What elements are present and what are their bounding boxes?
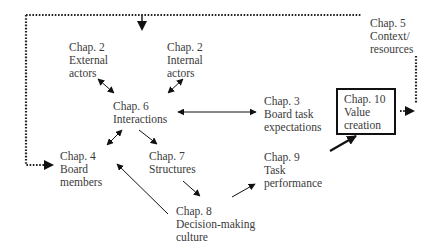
node-external-actors: Chap. 2 External actors (69, 41, 108, 79)
node-structures: Chap. 7 Structures (149, 150, 196, 176)
edge-task-performance-value (330, 136, 356, 151)
node-line: Board task (264, 108, 321, 121)
context-loop-left (26, 15, 44, 165)
node-line: actors (69, 67, 108, 80)
node-chapter: Chap. 6 (113, 100, 167, 113)
node-chapter: Chap. 7 (149, 150, 196, 163)
edge-structures-decision (183, 181, 200, 196)
node-chapter: Chap. 2 (167, 41, 203, 54)
node-line: Internal (167, 54, 203, 67)
node-board-task-expectations: Chap. 3 Board task expectations (264, 95, 321, 133)
edge-internal-actors-interactions (168, 79, 183, 93)
arrow-down-to-actors (137, 21, 147, 31)
node-chapter: Chap. 3 (264, 95, 321, 108)
node-board-members: Chap. 4 Board members (60, 150, 102, 188)
diagram-canvas: Chap. 2 External actors Chap. 2 Internal… (0, 0, 439, 245)
node-chapter: Chap. 10 (344, 93, 386, 106)
node-line: expectations (264, 121, 321, 134)
node-line: creation (344, 119, 386, 132)
arrow-value-to-context (405, 106, 415, 116)
node-interactions: Chap. 6 Interactions (113, 100, 167, 126)
node-task-performance: Chap. 9 Task performance (264, 151, 322, 189)
node-line: Value (344, 106, 386, 119)
node-line: Decision-making (176, 218, 255, 231)
arrow-to-board-members (44, 160, 54, 170)
node-line: performance (264, 177, 322, 190)
node-line: Task (264, 164, 322, 177)
edge-interactions-structures (139, 130, 157, 144)
node-line: actors (167, 67, 203, 80)
node-chapter: Chap. 4 (60, 150, 102, 163)
edge-decision-task-performance (232, 184, 255, 197)
node-line: External (69, 54, 108, 67)
node-line: resources (370, 43, 413, 56)
node-context-resources: Chap. 5 Context/ resources (370, 17, 413, 55)
node-line: members (60, 176, 102, 189)
node-internal-actors: Chap. 2 Internal actors (167, 41, 203, 79)
node-line: Context/ (370, 30, 413, 43)
node-chapter: Chap. 2 (69, 41, 108, 54)
edge-external-actors-interactions (98, 79, 114, 93)
node-line: culture (176, 231, 255, 244)
node-line: Interactions (113, 113, 167, 126)
node-decision-making-culture: Chap. 8 Decision-making culture (176, 205, 255, 243)
node-value-creation: Chap. 10 Value creation (336, 88, 396, 135)
node-chapter: Chap. 8 (176, 205, 255, 218)
node-line: Structures (149, 163, 196, 176)
node-chapter: Chap. 9 (264, 151, 322, 164)
node-line: Board (60, 163, 102, 176)
edge-interactions-board-members (107, 130, 122, 145)
node-chapter: Chap. 5 (370, 17, 413, 30)
